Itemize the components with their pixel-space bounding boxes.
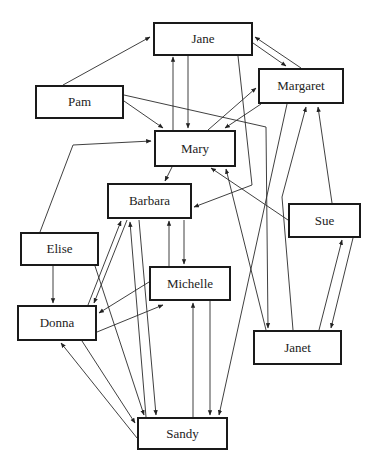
node-donna: Donna (17, 305, 97, 341)
edge-sandy-to-donna (61, 343, 137, 438)
node-label: Mary (181, 141, 209, 157)
edge-pam-to-jane (63, 37, 150, 85)
node-pam: Pam (35, 85, 124, 119)
edge-sandy-to-barbara (130, 222, 146, 417)
edge-donna-to-sandy (82, 341, 135, 423)
node-barbara: Barbara (107, 183, 192, 219)
edge-pam-to-mary (124, 101, 163, 128)
edge-sue-to-janet (331, 238, 353, 328)
edge-margaret-to-jane (255, 37, 301, 68)
node-label: Barbara (129, 193, 170, 209)
node-label: Sue (315, 213, 335, 229)
node-margaret: Margaret (258, 68, 344, 104)
edge-janet-to-sue (319, 240, 342, 330)
edge-barbara-to-sandy (139, 220, 156, 415)
node-label: Janet (284, 340, 311, 356)
node-sandy: Sandy (137, 417, 228, 450)
node-label: Donna (40, 315, 75, 331)
node-label: Sandy (166, 426, 199, 442)
edge-mary-to-barbara (165, 167, 172, 181)
edge-donna-to-michelle (97, 305, 163, 332)
node-jane: Jane (153, 22, 253, 56)
edge-michelle-to-donna (99, 282, 149, 313)
edge-janet-to-mary (226, 169, 266, 330)
node-label: Michelle (167, 276, 213, 292)
node-janet: Janet (253, 330, 342, 365)
edge-sue-to-margaret (318, 107, 332, 203)
edge-sue-to-mary (211, 168, 288, 220)
node-label: Pam (68, 94, 91, 110)
node-elise: Elise (20, 232, 99, 266)
edge-elise-to-sandy (95, 266, 144, 415)
node-label: Margaret (277, 78, 324, 94)
node-sue: Sue (288, 203, 361, 238)
node-label: Elise (47, 241, 73, 257)
sociogram-diagram: JaneMargaretPamMaryBarbaraSueEliseMichel… (0, 0, 377, 464)
node-label: Jane (191, 31, 214, 47)
node-mary: Mary (154, 130, 236, 167)
node-michelle: Michelle (149, 266, 231, 301)
